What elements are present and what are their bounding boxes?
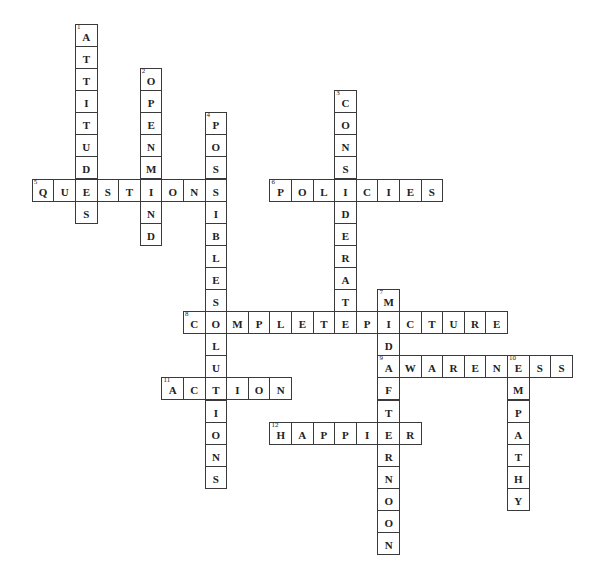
- crossword-cell[interactable]: S: [205, 179, 228, 202]
- crossword-cell[interactable]: N: [205, 444, 228, 467]
- crossword-cell[interactable]: T: [507, 444, 530, 467]
- crossword-cell[interactable]: O: [205, 311, 228, 334]
- crossword-cell[interactable]: I: [356, 422, 379, 445]
- crossword-cell[interactable]: D: [377, 333, 400, 356]
- crossword-cell[interactable]: O: [377, 488, 400, 511]
- crossword-cell[interactable]: T: [75, 46, 98, 69]
- crossword-cell[interactable]: T: [75, 112, 98, 135]
- crossword-cell[interactable]: N: [377, 466, 400, 489]
- crossword-cell[interactable]: N: [183, 179, 206, 202]
- crossword-cell[interactable]: U: [442, 311, 465, 334]
- crossword-cell[interactable]: L: [269, 311, 292, 334]
- crossword-cell[interactable]: A1: [75, 24, 98, 47]
- crossword-cell[interactable]: I: [205, 400, 228, 423]
- crossword-cell[interactable]: S: [205, 156, 228, 179]
- crossword-cell[interactable]: T: [75, 68, 98, 91]
- crossword-cell[interactable]: O: [161, 179, 184, 202]
- crossword-cell[interactable]: E: [334, 223, 357, 246]
- crossword-cell[interactable]: I: [226, 377, 249, 400]
- crossword-cell[interactable]: O: [291, 179, 314, 202]
- crossword-cell[interactable]: N: [140, 201, 163, 224]
- crossword-cell[interactable]: P6: [269, 179, 292, 202]
- crossword-cell[interactable]: N: [377, 532, 400, 555]
- crossword-cell[interactable]: E: [205, 267, 228, 290]
- crossword-cell[interactable]: O: [205, 422, 228, 445]
- crossword-cell[interactable]: P: [507, 400, 530, 423]
- crossword-cell[interactable]: U: [53, 179, 76, 202]
- crossword-cell[interactable]: E: [140, 112, 163, 135]
- crossword-cell[interactable]: C: [183, 377, 206, 400]
- crossword-cell[interactable]: A: [291, 422, 314, 445]
- crossword-cell[interactable]: D: [75, 156, 98, 179]
- crossword-cell[interactable]: H12: [269, 422, 292, 445]
- crossword-cell[interactable]: D: [140, 223, 163, 246]
- crossword-cell[interactable]: I: [75, 90, 98, 113]
- crossword-cell[interactable]: S: [205, 289, 228, 312]
- crossword-cell[interactable]: U: [205, 355, 228, 378]
- crossword-cell[interactable]: P: [248, 311, 271, 334]
- crossword-cell[interactable]: E: [334, 311, 357, 334]
- crossword-cell[interactable]: F: [377, 377, 400, 400]
- crossword-cell[interactable]: C3: [334, 90, 357, 113]
- crossword-cell[interactable]: T: [118, 179, 141, 202]
- crossword-cell[interactable]: E: [399, 179, 422, 202]
- crossword-cell[interactable]: N: [485, 355, 508, 378]
- crossword-cell[interactable]: I: [377, 179, 400, 202]
- crossword-cell[interactable]: E10: [507, 355, 530, 378]
- crossword-cell[interactable]: A: [421, 355, 444, 378]
- crossword-cell[interactable]: C: [399, 311, 422, 334]
- crossword-cell[interactable]: S: [550, 355, 573, 378]
- crossword-cell[interactable]: O: [377, 510, 400, 533]
- crossword-cell[interactable]: Q5: [32, 179, 55, 202]
- crossword-cell[interactable]: R: [442, 355, 465, 378]
- crossword-cell[interactable]: E: [377, 422, 400, 445]
- crossword-cell[interactable]: C: [356, 179, 379, 202]
- crossword-cell[interactable]: P: [334, 422, 357, 445]
- crossword-cell[interactable]: I: [334, 179, 357, 202]
- crossword-cell[interactable]: A9: [377, 355, 400, 378]
- crossword-cell[interactable]: M: [226, 311, 249, 334]
- crossword-cell[interactable]: T: [205, 377, 228, 400]
- crossword-cell[interactable]: I: [205, 201, 228, 224]
- crossword-cell[interactable]: C8: [183, 311, 206, 334]
- crossword-cell[interactable]: E: [464, 355, 487, 378]
- crossword-cell[interactable]: R: [399, 422, 422, 445]
- crossword-cell[interactable]: L: [205, 245, 228, 268]
- crossword-cell[interactable]: T: [421, 311, 444, 334]
- crossword-cell[interactable]: S: [529, 355, 552, 378]
- crossword-cell[interactable]: W: [399, 355, 422, 378]
- crossword-cell[interactable]: S: [334, 156, 357, 179]
- crossword-cell[interactable]: R: [464, 311, 487, 334]
- crossword-cell[interactable]: O: [334, 112, 357, 135]
- crossword-cell[interactable]: I: [140, 179, 163, 202]
- crossword-cell[interactable]: O: [205, 134, 228, 157]
- crossword-cell[interactable]: D: [334, 201, 357, 224]
- crossword-cell[interactable]: N: [269, 377, 292, 400]
- crossword-cell[interactable]: L: [313, 179, 336, 202]
- crossword-cell[interactable]: E: [75, 179, 98, 202]
- crossword-cell[interactable]: R: [377, 444, 400, 467]
- crossword-cell[interactable]: B: [205, 223, 228, 246]
- crossword-cell[interactable]: E: [291, 311, 314, 334]
- crossword-cell[interactable]: S: [421, 179, 444, 202]
- crossword-cell[interactable]: L: [205, 333, 228, 356]
- crossword-cell[interactable]: R: [334, 245, 357, 268]
- crossword-cell[interactable]: I: [377, 311, 400, 334]
- crossword-cell[interactable]: M7: [377, 289, 400, 312]
- crossword-cell[interactable]: O: [248, 377, 271, 400]
- crossword-cell[interactable]: T: [334, 289, 357, 312]
- crossword-cell[interactable]: P: [356, 311, 379, 334]
- crossword-cell[interactable]: O2: [140, 68, 163, 91]
- crossword-cell[interactable]: N: [140, 134, 163, 157]
- crossword-cell[interactable]: U: [75, 134, 98, 157]
- crossword-cell[interactable]: P4: [205, 112, 228, 135]
- crossword-cell[interactable]: A: [507, 422, 530, 445]
- crossword-cell[interactable]: S: [75, 201, 98, 224]
- crossword-cell[interactable]: M: [140, 156, 163, 179]
- crossword-cell[interactable]: E: [485, 311, 508, 334]
- crossword-cell[interactable]: H: [507, 466, 530, 489]
- crossword-cell[interactable]: M: [507, 377, 530, 400]
- crossword-cell[interactable]: S: [97, 179, 120, 202]
- crossword-cell[interactable]: A: [334, 267, 357, 290]
- crossword-cell[interactable]: N: [334, 134, 357, 157]
